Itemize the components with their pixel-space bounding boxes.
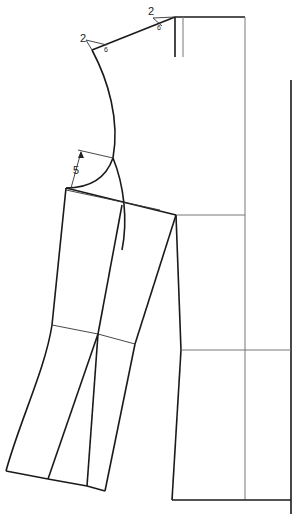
- side-panel: [172, 215, 291, 500]
- label-6-top: 6: [157, 24, 161, 31]
- label-6-left: 6: [104, 46, 108, 53]
- pattern-diagram: 2 6 2 6 5: [0, 0, 294, 514]
- label-2-top: 2: [148, 5, 154, 17]
- sleeve-block: [6, 188, 176, 491]
- label-2-left: 2: [80, 32, 86, 44]
- label-5: 5: [73, 164, 79, 176]
